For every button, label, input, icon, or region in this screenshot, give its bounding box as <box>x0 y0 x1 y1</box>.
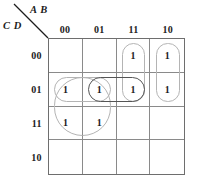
kmap-cell-r2-c0[interactable]: 1 <box>49 107 83 141</box>
kmap-column-header-10: 10 <box>151 22 185 37</box>
kmap-cell-r3-c3[interactable] <box>150 140 184 174</box>
kmap-corner-header: A B C D <box>0 0 52 42</box>
kmap-row-headers: 00011110 <box>14 38 46 175</box>
kmap-cell-r2-c3[interactable] <box>150 107 184 141</box>
variable-label-ab: A B <box>30 4 48 15</box>
variable-label-cd: C D <box>3 20 22 31</box>
kmap-cell-r3-c2[interactable] <box>117 140 151 174</box>
kmap-column-header-01: 01 <box>82 22 116 37</box>
kmap-row-header-00: 00 <box>14 38 46 72</box>
kmap-cell-r2-c2[interactable] <box>117 107 151 141</box>
kmap-cell-r1-c3[interactable]: 1 <box>150 73 184 107</box>
kmap-column-header-00: 00 <box>48 22 82 37</box>
kmap-row-header-01: 01 <box>14 72 46 106</box>
kmap-cell-r0-c0[interactable] <box>49 39 83 73</box>
kmap-row-header-11: 11 <box>14 107 46 141</box>
karnaugh-map: A B C D 00011110 00011110 11111111 <box>0 0 198 189</box>
kmap-cell-r0-c1[interactable] <box>83 39 117 73</box>
kmap-cell-r1-c1[interactable]: 1 <box>83 73 117 107</box>
kmap-row-header-10: 10 <box>14 141 46 175</box>
kmap-cell-r0-c3[interactable]: 1 <box>150 39 184 73</box>
kmap-cell-r3-c0[interactable] <box>49 140 83 174</box>
kmap-cell-r2-c1[interactable]: 1 <box>83 107 117 141</box>
kmap-cell-r0-c2[interactable]: 1 <box>117 39 151 73</box>
kmap-grid: 11111111 <box>48 38 185 175</box>
kmap-column-header-11: 11 <box>117 22 151 37</box>
kmap-cell-r1-c0[interactable]: 1 <box>49 73 83 107</box>
kmap-column-headers: 00011110 <box>48 22 185 37</box>
kmap-cell-r3-c1[interactable] <box>83 140 117 174</box>
kmap-cell-r1-c2[interactable]: 1 <box>117 73 151 107</box>
